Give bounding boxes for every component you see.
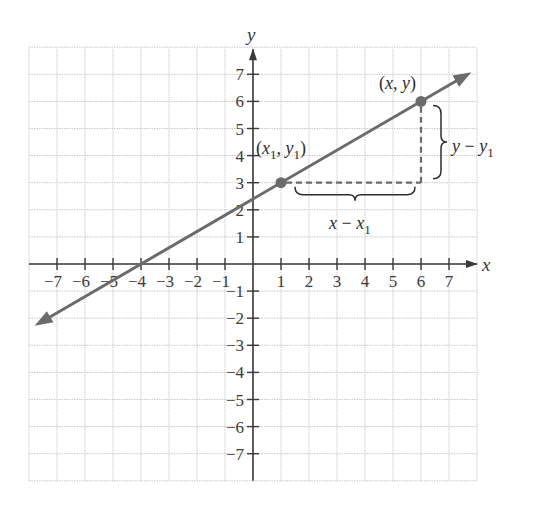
- x-axis-label: x: [481, 254, 491, 275]
- label-var-x: x: [384, 73, 393, 93]
- y-axis-arrow-icon: [249, 48, 257, 60]
- rise-brace-icon: [433, 105, 447, 178]
- x-tick-label: 7: [445, 272, 454, 291]
- label-var: x: [355, 213, 364, 233]
- point-x1-y1: [276, 177, 287, 188]
- label-sep: ,: [277, 138, 286, 158]
- x-tick-label: −4: [128, 272, 147, 291]
- y-tick-label: −5: [226, 391, 244, 410]
- run-label: x − x1: [328, 213, 371, 237]
- coordinate-plane: −7−6−5−4−3−2−11234567−7−6−5−4−3−2−112345…: [0, 0, 534, 507]
- label-var-x: x: [261, 138, 270, 158]
- point-label-x-y: (x, y): [379, 73, 416, 94]
- y-tick-label: 6: [236, 92, 245, 111]
- x-tick-label: 3: [333, 272, 342, 291]
- y-tick-label: −6: [226, 418, 244, 437]
- y-tick-label: 4: [236, 147, 245, 166]
- label-sub: 1: [364, 222, 371, 237]
- label-op: −: [337, 213, 356, 233]
- label-sub: 1: [487, 145, 494, 160]
- point-x-y: [416, 96, 427, 107]
- y-tick-label: 3: [236, 174, 245, 193]
- y-tick-label: −4: [226, 363, 245, 382]
- x-tick-label: −6: [72, 272, 90, 291]
- y-axis-label: y: [245, 24, 256, 45]
- label-var-y: y: [400, 73, 410, 93]
- label-paren-close: ): [300, 138, 306, 159]
- label-var-y: y: [284, 138, 294, 158]
- point-label-x1-y1: (x1, y1): [256, 138, 306, 162]
- label-sep: ,: [393, 73, 402, 93]
- run-brace-icon: [295, 187, 415, 201]
- y-tick-label: 5: [236, 120, 245, 139]
- label-op: −: [460, 136, 479, 156]
- y-tick-label: −7: [226, 445, 245, 464]
- x-tick-label: 4: [361, 272, 370, 291]
- label-var: y: [477, 136, 487, 156]
- guides: [286, 105, 447, 200]
- y-tick-label: −2: [226, 309, 244, 328]
- label-paren-close: ): [410, 73, 416, 94]
- x-axis-arrow-icon: [466, 260, 478, 268]
- y-tick-label: 1: [236, 228, 245, 247]
- rise-label: y − y1: [450, 136, 494, 160]
- y-tick-label: −1: [226, 282, 244, 301]
- label-var: y: [450, 136, 460, 156]
- x-tick-label: 1: [277, 272, 286, 291]
- y-tick-label: −3: [226, 336, 244, 355]
- axes: [29, 48, 478, 481]
- x-tick-label: −2: [184, 272, 202, 291]
- x-tick-label: −3: [156, 272, 174, 291]
- y-tick-label: 7: [236, 65, 245, 84]
- x-tick-label: 6: [417, 272, 426, 291]
- x-tick-label: −7: [44, 272, 63, 291]
- x-tick-label: 2: [305, 272, 314, 291]
- label-var: x: [328, 213, 337, 233]
- x-tick-label: 5: [389, 272, 398, 291]
